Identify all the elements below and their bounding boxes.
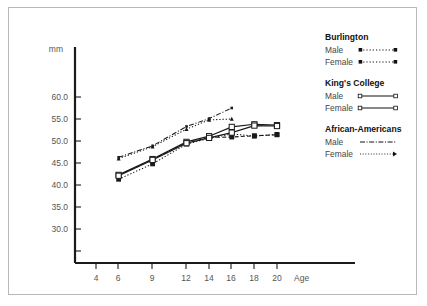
data-point (185, 127, 189, 131)
legend-group-title-kings-college: King's College (325, 78, 385, 88)
series-line (119, 124, 277, 175)
x-tick-label-6: 6 (116, 273, 121, 283)
legend-swatch-kings-male (358, 94, 397, 98)
legend-swatch-aa-female (360, 152, 397, 157)
legend-item-label-aa-female: Female (325, 149, 353, 159)
y-tick-label-35: 35.0 (51, 202, 68, 212)
data-point (252, 123, 257, 128)
legend-item-label-burlington-male: Male (325, 45, 343, 55)
x-tick-label-14: 14 (204, 273, 214, 283)
x-tick-label-20: 20 (272, 273, 282, 283)
data-point (252, 133, 257, 138)
data-point (116, 173, 121, 178)
data-point (150, 157, 155, 162)
data-point (207, 135, 212, 140)
data-point (229, 130, 234, 135)
x-tick-label-9: 9 (150, 273, 155, 283)
y-tick-label-50: 50.0 (51, 136, 68, 146)
legend-item-label-aa-male: Male (325, 137, 343, 147)
legend-item-label-kings-female: Female (325, 103, 353, 113)
chart-container: 60.0 55.0 50.0 45.0 40.0 35.0 30.0 mm 4 … (0, 0, 427, 306)
x-tick-label-16: 16 (226, 273, 236, 283)
x-axis-name: Age (294, 273, 309, 283)
data-point (275, 132, 280, 137)
legend-group-title-african-americans: African-Americans (325, 124, 402, 134)
series-african-americans-male (117, 107, 233, 159)
legend-item-label-burlington-female: Female (325, 57, 353, 67)
data-point (229, 124, 234, 129)
x-tick-label-4: 4 (94, 273, 99, 283)
y-tick-label-55: 55.0 (51, 114, 68, 124)
x-tick-label-12: 12 (181, 273, 191, 283)
data-point (230, 107, 233, 110)
series-african-americans-female (117, 117, 234, 161)
x-axis-ticks: 4 6 9 12 14 16 18 20 Age (94, 263, 310, 283)
y-axis-ticks: 60.0 55.0 50.0 45.0 40.0 35.0 30.0 (51, 92, 81, 251)
legend-item-label-kings-male: Male (325, 91, 343, 101)
y-tick-label-45: 45.0 (51, 158, 68, 168)
x-tick-label-18: 18 (249, 273, 259, 283)
legend-group-title-burlington: Burlington (325, 32, 368, 42)
chart-legend: Burlington Male Female King's College Ma… (325, 32, 402, 159)
legend-swatch-burlington-male (359, 48, 398, 52)
data-point (151, 145, 155, 149)
y-axis-unit-label: mm (49, 44, 63, 54)
y-tick-label-60: 60.0 (51, 92, 68, 102)
legend-swatch-burlington-female (359, 60, 398, 64)
y-tick-label-30: 30.0 (51, 224, 68, 234)
data-point (274, 123, 279, 128)
series-line (119, 108, 232, 157)
line-chart: 60.0 55.0 50.0 45.0 40.0 35.0 30.0 mm 4 … (0, 0, 427, 306)
data-series-layer (116, 107, 280, 182)
data-point (230, 117, 234, 121)
series-line (119, 119, 232, 159)
data-point (184, 141, 189, 146)
y-tick-label-40: 40.0 (51, 180, 68, 190)
axis-lines (75, 47, 355, 263)
legend-swatch-kings-female (358, 106, 397, 110)
